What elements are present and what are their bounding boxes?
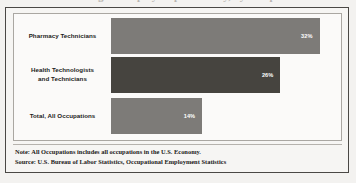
cut-off-title: Percentage of employees paid hourly, by … [0,0,356,6]
chart-plot-area: Pharmacy Technicians 32% Health Technolo… [13,13,342,141]
bar-category-label: Health Technologists and Technicians [16,57,109,93]
bar-value-label: 26% [262,72,274,78]
chart-bar-row: Pharmacy Technicians 32% [14,18,341,54]
figure-frame: Pharmacy Technicians 32% Health Technolo… [5,7,349,173]
bar-total-all-occupations[interactable]: 14% [111,98,202,134]
cut-off-title-text: Percentage of employees paid hourly, by … [57,0,300,2]
bar-track: 26% [111,57,341,93]
bar-value-label: 14% [184,113,196,119]
notes-divider [13,144,342,145]
bar-track: 32% [111,18,341,54]
figure-notes: Note: All Occupations includes all occup… [15,147,340,167]
chart-bar-row: Total, All Occupations 14% [14,98,341,134]
bar-category-label-line: Pharmacy Technicians [29,32,97,41]
chart-bar-row: Health Technologists and Technicians 26% [14,57,341,93]
bar-category-label: Pharmacy Technicians [16,18,109,54]
bar-category-label: Total, All Occupations [16,98,109,134]
bar-category-label-line: Total, All Occupations [30,112,96,121]
bar-category-label-line: and Technicians [31,75,94,84]
figure-note: Note: All Occupations includes all occup… [15,147,340,157]
bar-category-label-line: Health Technologists [31,66,94,75]
bar-health-technologists-and-technicians[interactable]: 26% [111,57,280,93]
bar-track: 14% [111,98,341,134]
figure-source: Source: U.S. Bureau of Labor Statistics,… [15,157,340,167]
bar-pharmacy-technicians[interactable]: 32% [111,18,320,54]
bar-value-label: 32% [301,33,313,39]
